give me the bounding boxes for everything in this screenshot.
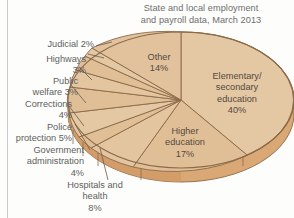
label-higher-education: Higher education 17% (154, 126, 216, 160)
label-judicial: Judicial 2% (10, 39, 94, 50)
label-public-welfare: Public welfare 3% (4, 76, 78, 99)
label-hospitals-and-health: Hospitals and health 8% (62, 180, 128, 214)
label-elementary-secondary-education: Elementary/ secondary education 40% (198, 71, 276, 117)
pie-chart-figure: State and local employment and payroll d… (0, 0, 294, 218)
label-corrections: Corrections 4% (0, 99, 72, 122)
label-government-administration: Government administration 4% (4, 145, 84, 179)
label-other: Other 14% (132, 52, 186, 75)
label-highways: Highways 3% (8, 54, 86, 77)
label-police-protection: Police protection 5% (0, 122, 72, 145)
